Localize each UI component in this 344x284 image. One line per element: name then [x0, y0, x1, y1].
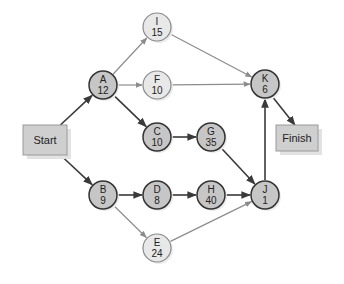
edges-layer: [60, 34, 295, 241]
node-letter: F: [154, 74, 160, 85]
node-d: D8: [143, 181, 173, 211]
edge-i-to-k: [170, 34, 251, 77]
nodes-layer: A12B9I15F10C10D8E24G35H40K6J1: [89, 13, 281, 264]
edge-a-to-i: [113, 38, 147, 74]
node-letter: D: [153, 184, 160, 195]
node-j: J1: [251, 181, 281, 211]
edge-start-to-b: [60, 155, 92, 185]
node-e: E24: [143, 234, 173, 264]
node-b: B9: [89, 181, 119, 211]
edge-k-to-finish: [273, 97, 295, 125]
node-letter: I: [156, 16, 159, 27]
edge-a-to-c: [114, 95, 146, 126]
edge-start-to-a: [60, 95, 92, 125]
node-letter: K: [262, 73, 269, 84]
node-h: H40: [197, 181, 227, 211]
node-duration: 24: [151, 248, 163, 259]
node-letter: E: [154, 237, 161, 248]
finish-label: Finish: [282, 132, 311, 144]
finish-box: Finish: [276, 125, 322, 155]
node-letter: A: [100, 74, 107, 85]
node-letter: B: [100, 184, 107, 195]
edge-b-to-e: [114, 206, 147, 238]
node-letter: J: [263, 184, 268, 195]
network-diagram: StartFinish A12B9I15F10C10D8E24G35H40K6J…: [0, 0, 344, 284]
node-letter: H: [207, 184, 214, 195]
node-duration: 6: [262, 84, 268, 95]
node-f: F10: [143, 71, 173, 101]
node-letter: C: [153, 126, 160, 137]
node-duration: 1: [262, 195, 268, 206]
edge-g-to-j: [221, 148, 255, 184]
node-k: K6: [251, 70, 281, 100]
node-c: C10: [143, 123, 173, 153]
node-duration: 40: [205, 195, 217, 206]
node-duration: 10: [151, 137, 163, 148]
node-g: G35: [197, 123, 227, 153]
start-box: Start: [23, 125, 71, 159]
node-duration: 12: [97, 85, 109, 96]
node-duration: 15: [151, 27, 163, 38]
node-i: I15: [143, 13, 173, 43]
node-duration: 8: [154, 195, 160, 206]
node-duration: 10: [151, 85, 163, 96]
start-label: Start: [33, 134, 56, 146]
node-letter: G: [207, 126, 215, 137]
edge-f-to-k: [172, 84, 250, 85]
node-duration: 9: [100, 195, 106, 206]
node-duration: 35: [205, 137, 217, 148]
node-a: A12: [89, 71, 119, 101]
